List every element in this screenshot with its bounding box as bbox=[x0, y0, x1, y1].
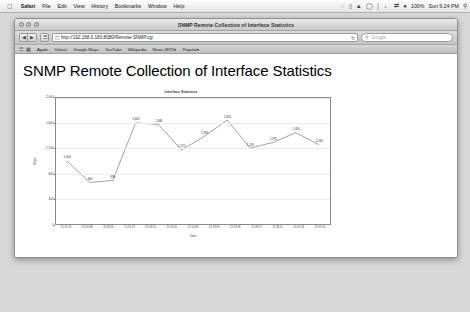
x-tick-label: 21:14:06 bbox=[188, 226, 198, 229]
sidebar-toggle-button[interactable]: ☰ bbox=[40, 33, 49, 42]
navigation-buttons: ◀ ▶ bbox=[19, 33, 37, 42]
y-axis-label-text: Kbps bbox=[33, 157, 37, 164]
menu-item-view[interactable]: View bbox=[70, 3, 88, 9]
interface-statistics-chart: Interface Statistics Kbps 04008001,2001,… bbox=[31, 90, 331, 240]
x-tick-label: 21:55:48 bbox=[82, 226, 92, 229]
bookmark-popular[interactable]: Popular▾ bbox=[179, 47, 202, 52]
data-point-label: 660 bbox=[88, 177, 93, 181]
bluetooth-icon[interactable]: ♢ bbox=[340, 3, 345, 9]
bookmark-youtube[interactable]: YouTube bbox=[102, 47, 125, 52]
data-point-label: 690 bbox=[111, 175, 116, 179]
x-tick-label: 21:33:12 bbox=[272, 226, 282, 229]
mac-menu-bar:  Safari File Edit View History Bookmark… bbox=[0, 0, 470, 13]
grid-line bbox=[56, 98, 330, 99]
page-icon: ☐ bbox=[55, 35, 59, 41]
x-tick-label: 21:23:36 bbox=[230, 226, 240, 229]
magnifier-icon: ⚲ bbox=[365, 35, 369, 40]
menu-item-file[interactable]: File bbox=[39, 3, 54, 9]
data-point-label: 1,260 bbox=[315, 139, 322, 143]
reload-icon[interactable]: ↻ bbox=[351, 35, 355, 41]
url-text[interactable]: http://192.168.0.180:8080/Remote-SNMP.cg… bbox=[61, 35, 349, 40]
bookmark-wikipedia[interactable]: Wikipedia bbox=[125, 47, 150, 52]
bookmark-yahoo[interactable]: Yahoo! bbox=[51, 47, 70, 52]
browser-toolbar: ◀ ▶ ☰ ☐ http://192.168.0.180:8080/Remote… bbox=[15, 31, 457, 45]
input-menu-icon[interactable]: │ bbox=[377, 3, 381, 9]
safari-window: SNMP Remote Collection of Interface Stat… bbox=[14, 18, 458, 258]
x-tick-label: 21:10:41 bbox=[167, 226, 177, 229]
chart-y-axis-label: Kbps bbox=[31, 97, 38, 225]
chart-plot-area: 1,0006606901,6051,5801,1751,3901,6501,20… bbox=[55, 97, 331, 225]
zoom-button[interactable] bbox=[34, 22, 39, 27]
data-point-label: 1,450 bbox=[293, 127, 300, 131]
x-tick-label: 21:12:19 bbox=[124, 226, 134, 229]
grid-line bbox=[56, 123, 330, 124]
data-point-label: 1,175 bbox=[178, 144, 185, 148]
page-content: SNMP Remote Collection of Interface Stat… bbox=[15, 54, 457, 257]
search-field[interactable]: ⚲ Google bbox=[361, 33, 453, 42]
x-tick-label: 21:51:25 bbox=[61, 226, 71, 229]
data-point-label: 1,205 bbox=[247, 143, 254, 147]
x-tick-label: 21:59:16 bbox=[103, 226, 113, 229]
bookmark-google-maps[interactable]: Google Maps bbox=[70, 47, 102, 52]
data-point-label: 1,000 bbox=[64, 155, 71, 159]
sync-icon[interactable]: ⇄ bbox=[394, 3, 399, 9]
apple-menu-icon[interactable]:  bbox=[7, 3, 12, 10]
bookmark-apple[interactable]: Apple bbox=[34, 47, 51, 52]
data-point-label: 1,650 bbox=[224, 115, 231, 119]
menu-bar-clock[interactable]: Sun 9:24 PM bbox=[428, 3, 459, 9]
bookmarks-bar: ☷ ▦ Apple Yahoo! Google Maps YouTube Wik… bbox=[15, 45, 457, 54]
battery-percent: 100% bbox=[411, 3, 424, 9]
forward-button[interactable]: ▶ bbox=[28, 33, 37, 42]
top-sites-icon[interactable]: ▦ bbox=[26, 47, 31, 52]
x-tick-label: 21:19:59 bbox=[209, 226, 219, 229]
chart-x-axis-ticks: 21:51:2521:55:4821:59:1621:12:1921:03:15… bbox=[55, 225, 331, 234]
page-title: SNMP Remote Collection of Interface Stat… bbox=[23, 62, 457, 79]
x-tick-label: 21:53:10 bbox=[315, 226, 325, 229]
x-tick-label: 21:41:18 bbox=[294, 226, 304, 229]
window-title: SNMP Remote Collection of Interface Stat… bbox=[15, 22, 457, 28]
back-button[interactable]: ◀ bbox=[19, 33, 28, 42]
y-tick-label: 0 bbox=[52, 223, 54, 227]
timemachine-icon[interactable]: ◯ bbox=[366, 3, 373, 9]
data-point-label: 1,295 bbox=[270, 137, 277, 141]
grid-line bbox=[56, 174, 330, 175]
window-title-bar[interactable]: SNMP Remote Collection of Interface Stat… bbox=[15, 19, 457, 31]
x-tick-label: 21:28:07 bbox=[251, 226, 261, 229]
spotlight-icon[interactable]: ⚲ bbox=[463, 3, 467, 9]
menu-item-bookmarks[interactable]: Bookmarks bbox=[111, 3, 144, 9]
x-tick-label: 21:03:15 bbox=[145, 226, 155, 229]
y-tick-label: 2,000 bbox=[46, 95, 54, 99]
grid-line bbox=[56, 148, 330, 149]
menu-item-window[interactable]: Window bbox=[145, 3, 171, 9]
close-button[interactable] bbox=[19, 22, 24, 27]
airport-icon[interactable]: ▲ bbox=[356, 3, 362, 9]
data-point-label: 1,580 bbox=[155, 119, 162, 123]
y-tick-label: 1,600 bbox=[46, 121, 54, 125]
data-point-label: 1,390 bbox=[201, 131, 208, 135]
grid-line bbox=[56, 199, 330, 200]
chart-title: Interface Statistics bbox=[31, 90, 331, 94]
menu-item-safari[interactable]: Safari bbox=[17, 3, 39, 9]
volume-icon[interactable]: ♩ bbox=[384, 3, 390, 9]
menu-bar-status-area: ♢ ▯ ▲ ◯ │ ♩ ⇄ ● 100% Sun 9:24 PM ⚲ bbox=[340, 3, 467, 9]
minimize-button[interactable] bbox=[26, 22, 31, 27]
menu-item-help[interactable]: Help bbox=[170, 3, 188, 9]
y-tick-label: 400 bbox=[49, 197, 54, 201]
window-controls bbox=[19, 22, 39, 27]
menu-item-edit[interactable]: Edit bbox=[54, 3, 70, 9]
chart-line-series bbox=[56, 98, 330, 224]
bookmark-news[interactable]: News (897)▾ bbox=[149, 47, 179, 52]
battery-icon[interactable]: ▯ bbox=[349, 3, 352, 9]
search-placeholder: Google bbox=[371, 35, 386, 40]
chart-x-axis-label: Time bbox=[55, 234, 331, 238]
y-tick-label: 1,200 bbox=[46, 146, 54, 150]
menu-item-history[interactable]: History bbox=[88, 3, 111, 9]
user-icon[interactable]: ● bbox=[403, 3, 407, 9]
y-tick-label: 800 bbox=[49, 172, 54, 176]
address-bar[interactable]: ☐ http://192.168.0.180:8080/Remote-SNMP.… bbox=[52, 33, 358, 42]
chart-plot-row: Kbps 04008001,2001,6002,000 1,0006606901… bbox=[31, 97, 331, 225]
chart-y-axis-ticks: 04008001,2001,6002,000 bbox=[38, 97, 55, 225]
show-all-bookmarks-icon[interactable]: ☷ bbox=[19, 47, 23, 52]
data-point-label: 1,605 bbox=[132, 117, 139, 121]
desktop:  Safari File Edit View History Bookmark… bbox=[0, 0, 470, 312]
